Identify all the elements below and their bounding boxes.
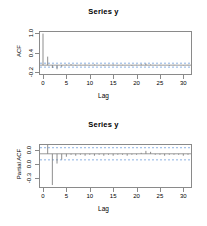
acf-y-tick-mark-1 [35,53,39,54]
pacf-series-canvas [40,145,191,187]
acf-y-axis-label: ACF [16,31,22,71]
pacf-x-tick-1: 5 [59,193,73,199]
pacf-x-axis-label: Lag [0,205,207,212]
pacf-y-tick-mark-2 [35,178,39,179]
acf-plot-area [39,31,192,75]
pacf-y-tick-mark-0 [35,150,39,151]
acf-x-tick-6: 30 [176,80,190,86]
acf-x-tick-mark-5 [160,75,161,79]
pacf-panel: Series y Partial ACF 0.00.0-0.3 05101520… [0,113,207,226]
pacf-x-tick-2: 10 [83,193,97,199]
pacf-x-tick-mark-0 [43,188,44,192]
pacf-y-axis-label: Partial ACF [16,140,22,188]
acf-x-axis-label: Lag [0,92,207,99]
acf-x-tick-2: 10 [83,80,97,86]
pacf-x-tick-mark-5 [160,188,161,192]
acf-x-tick-mark-0 [43,75,44,79]
acf-x-tick-5: 25 [153,80,167,86]
acf-panel: Series y ACF 1.00.4-0.2 051015202530 Lag [0,0,207,113]
pacf-y-tick-mark-1 [35,164,39,165]
pacf-x-tick-mark-1 [66,188,67,192]
acf-x-tick-mark-1 [66,75,67,79]
acf-x-tick-mark-3 [113,75,114,79]
acf-x-tick-0: 0 [36,80,50,86]
pacf-x-tick-mark-2 [90,188,91,192]
acf-y-tick-mark-0 [35,33,39,34]
pacf-y-tick-2: -0.3 [26,170,32,186]
pacf-x-tick-4: 20 [130,193,144,199]
pacf-x-tick-mark-6 [183,188,184,192]
pacf-x-tick-0: 0 [36,193,50,199]
acf-plot-title: Series y [0,7,207,16]
pacf-x-tick-mark-4 [137,188,138,192]
acf-x-tick-mark-4 [137,75,138,79]
pacf-x-tick-3: 15 [106,193,120,199]
acf-x-tick-mark-6 [183,75,184,79]
pacf-plot-title: Series y [0,120,207,129]
acf-x-tick-mark-2 [90,75,91,79]
pacf-plot-area [39,144,192,188]
acf-y-tick-mark-2 [35,72,39,73]
pacf-x-tick-5: 25 [153,193,167,199]
acf-series-canvas [40,32,191,74]
pacf-x-tick-mark-3 [113,188,114,192]
acf-x-tick-4: 20 [130,80,144,86]
acf-x-tick-1: 5 [59,80,73,86]
acf-y-tick-1: 0.4 [28,45,34,61]
acf-y-tick-0: 1.0 [28,25,34,41]
acf-x-tick-3: 15 [106,80,120,86]
acf-y-tick-2: -0.2 [28,64,34,80]
pacf-x-tick-6: 30 [176,193,190,199]
